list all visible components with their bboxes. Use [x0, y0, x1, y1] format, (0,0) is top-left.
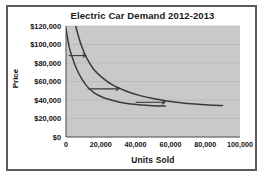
x-tick-label: 100,000: [217, 140, 263, 149]
y-tick-label: $20,000: [13, 114, 61, 123]
y-tick-label: $80,000: [13, 59, 61, 68]
y-tick-label: $40,000: [13, 96, 61, 105]
y-tick-label: $120,000: [13, 22, 61, 31]
chart-figure: Electric Car Demand 2012-2013 Price Unit…: [0, 0, 265, 179]
y-tick-label: $100,000: [13, 40, 61, 49]
y-tick-label: $60,000: [13, 77, 61, 86]
